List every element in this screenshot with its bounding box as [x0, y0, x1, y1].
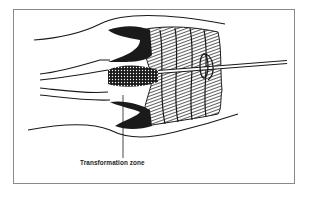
brush-bristles	[108, 66, 158, 87]
cervix-upper-lip	[108, 26, 152, 62]
cervix-illustration	[0, 0, 310, 197]
transformation-zone-label: Transformation zone	[80, 159, 145, 166]
